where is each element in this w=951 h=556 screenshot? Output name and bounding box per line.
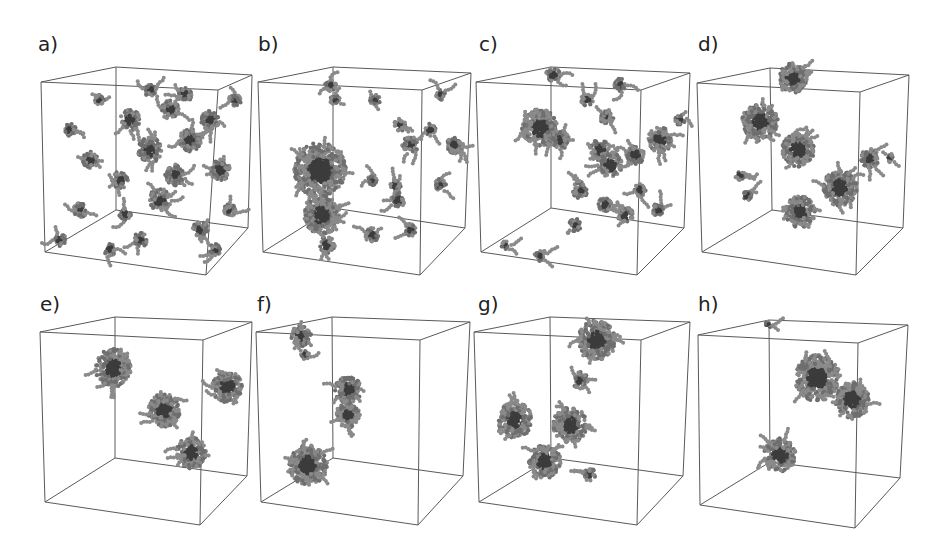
particle-cluster [673,110,693,128]
particle-cluster [137,128,164,173]
cube-edge [45,458,115,502]
particle-cluster [647,126,685,166]
particle-cluster [368,90,382,112]
particle-cluster [63,201,98,219]
cube-edge [641,73,690,90]
particle-cluster [163,83,193,102]
particle-cluster [290,136,355,205]
cube-edge [420,322,470,340]
particle-cluster [533,245,560,269]
particle-cluster [622,182,650,209]
cube-edge [551,67,690,73]
particle-cluster [781,126,820,170]
cube-edge [551,458,683,476]
cube-panel-g [474,317,690,526]
cube-edge [697,83,702,252]
cube-edge [332,317,333,458]
cube-panel-b [258,67,475,275]
cube-edge [258,82,263,252]
cube-edge [256,332,420,340]
cube-edge [247,322,252,476]
particle-cluster [740,97,781,145]
cube-edge [900,325,908,478]
cube-edge [697,68,770,83]
particle-cluster [283,438,334,487]
particle-cluster [317,231,337,262]
cube-edge [481,252,637,275]
cube-edge [855,343,858,528]
cube-edge [637,476,683,525]
cube-edge [332,317,470,322]
cube-panel-h [698,316,908,528]
cube-panel-a [40,67,252,275]
particle-cluster [352,225,383,244]
cube-edge [476,67,551,82]
cube-edge [476,82,481,252]
particle-cluster [199,109,226,144]
cube-edge [40,332,203,340]
particle-cluster [202,155,232,182]
particle-cluster [63,122,86,139]
particle-cluster [651,189,673,217]
cube-edge [261,502,418,525]
particle-cluster [567,317,625,365]
cube-edge [463,322,470,476]
particle-cluster [379,191,406,213]
cube-panel-c [476,67,694,275]
particle-cluster [146,182,185,219]
particle-cluster [389,167,403,193]
cube-edge [637,228,684,275]
cube-edge [420,228,465,275]
cube-edge [116,67,252,75]
cube-edge [41,82,45,252]
particle-cluster [360,164,379,188]
particle-cluster [570,366,598,395]
particle-cluster [544,67,574,88]
particle-cluster [419,122,441,146]
particle-cluster [446,136,475,164]
particle-cluster [551,400,597,449]
cube-edge [698,335,858,343]
particle-cluster [111,197,133,230]
cube-edge [474,317,550,332]
cube-edge [698,320,769,335]
particle-cluster [781,195,822,229]
particle-cluster [222,195,251,218]
cube-edge [465,73,471,228]
particle-cluster [107,170,130,197]
cube-edge [769,320,908,325]
cube-edge [684,73,690,228]
particle-cluster [521,443,565,480]
particle-cluster [163,430,210,470]
particle-cluster [569,467,597,483]
cube-edge [637,340,641,525]
cube-edge [200,476,247,525]
cube-edge [550,317,551,458]
cube-edge [702,210,772,252]
cube-edge [550,317,690,322]
particle-cluster [84,347,133,399]
cube-edge [218,75,252,90]
cube-edge [263,252,420,275]
particle-cluster [734,170,759,182]
particle-cluster [114,108,142,142]
particle-cluster [136,76,166,98]
cube-edge [420,90,422,275]
cube-panel-f [256,317,470,525]
particle-cluster [566,217,582,235]
particle-cluster [500,237,523,256]
particle-cluster [393,117,415,134]
cube-edge [702,252,856,275]
cube-edge [40,317,115,332]
particle-cluster [579,82,598,107]
particle-cluster [612,77,640,102]
cube-edge [479,502,637,525]
particle-cluster [329,399,362,438]
cube-edge [856,228,903,275]
cube-edge [860,75,909,92]
particle-cluster [163,163,196,188]
particle-cluster [76,150,104,170]
cube-edge [700,505,855,528]
cube-edge [256,332,261,502]
cube-edge [698,335,700,505]
